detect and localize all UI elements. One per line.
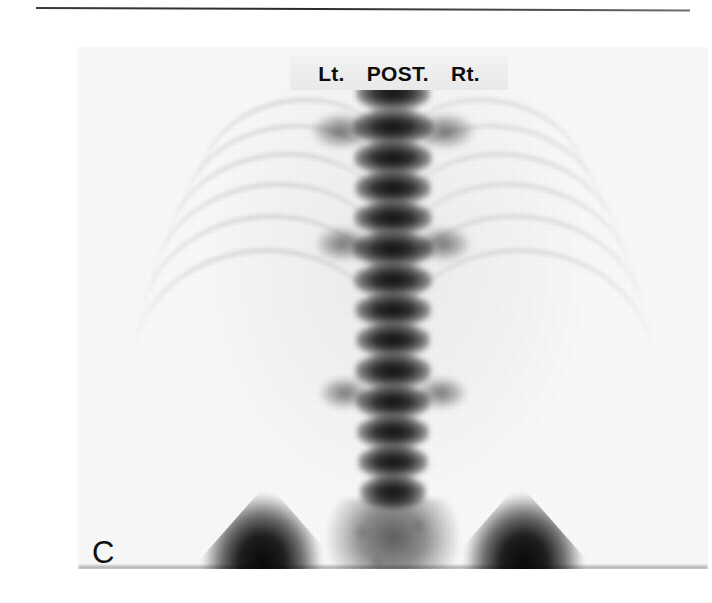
vertebra: [357, 415, 429, 449]
bone-scan-figure: Lt. POST. Rt. C: [40, 16, 712, 603]
vertebra: [356, 385, 430, 419]
vertebra: [353, 231, 433, 267]
orientation-left-marker: Lt.: [318, 63, 345, 84]
vertebra: [354, 141, 432, 175]
spine-uptake-column: [345, 75, 441, 527]
vertebra: [354, 263, 432, 297]
orientation-label-band: Lt. POST. Rt.: [290, 56, 508, 90]
vertebra: [358, 445, 428, 479]
vertebra: [353, 109, 433, 145]
orientation-view-marker: POST.: [367, 63, 429, 84]
vertebra: [356, 323, 430, 357]
vertebra: [355, 353, 431, 389]
orientation-right-marker: Rt.: [451, 63, 480, 84]
vertebra: [355, 293, 431, 327]
vertebra: [355, 171, 431, 205]
vertebra: [354, 201, 432, 235]
scintigram-plate: Lt. POST. Rt.: [78, 47, 708, 595]
panel-label: C: [92, 537, 114, 568]
page-rule: [36, 7, 690, 12]
scan-field-cutoff: [78, 569, 708, 595]
